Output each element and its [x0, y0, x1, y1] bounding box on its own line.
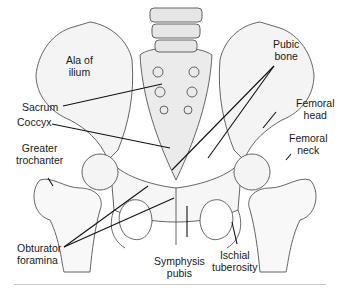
label-ala-of-ilium: Ala of ilium: [66, 54, 93, 78]
label-line-1: Symphysis: [154, 255, 205, 267]
label-coccyx: Coccyx: [17, 116, 51, 128]
label-line-2: neck: [289, 144, 328, 156]
label-line-2: head: [296, 109, 335, 121]
label-line-1: Pubic: [273, 38, 299, 50]
label-line-1: Ala of: [66, 54, 93, 66]
label-femoral-neck: Femoral neck: [289, 132, 328, 156]
label-line-2: pubis: [154, 267, 205, 279]
label-line-2: bone: [273, 50, 299, 62]
label-line-1: Obturator: [17, 242, 61, 254]
label-line-1: Greater: [16, 142, 63, 154]
label-sacrum: Sacrum: [22, 101, 58, 113]
label-ischial-tuberosity: Ischial tuberosity: [212, 249, 258, 273]
label-symphysis-pubis: Symphysis pubis: [154, 255, 205, 279]
label-greater-trochanter: Greater trochanter: [16, 142, 63, 166]
bottom-divider: [14, 284, 326, 285]
label-line-2: tuberosity: [212, 261, 258, 273]
label-pubic-bone: Pubic bone: [273, 38, 299, 62]
label-line-1: Femoral: [289, 132, 328, 144]
label-line-2: ilium: [66, 66, 93, 78]
label-line-1: Ischial: [212, 249, 258, 261]
label-femoral-head: Femoral head: [296, 97, 335, 121]
label-line-1: Femoral: [296, 97, 335, 109]
label-line-2: foramina: [17, 254, 61, 266]
label-line-2: trochanter: [16, 154, 63, 166]
label-obturator-foramina: Obturator foramina: [17, 242, 61, 266]
